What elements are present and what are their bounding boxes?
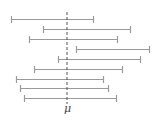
confidence-interval [29, 36, 118, 43]
interval-group [11, 16, 150, 102]
confidence-interval [11, 16, 94, 23]
confidence-interval [34, 66, 123, 73]
confidence-interval [20, 85, 109, 92]
confidence-interval [16, 76, 104, 83]
confidence-interval [58, 56, 141, 63]
confidence-interval [24, 95, 117, 102]
mu-label: μ [64, 102, 71, 115]
confidence-interval-diagram: μ [0, 0, 162, 128]
confidence-interval [43, 26, 131, 33]
confidence-interval [76, 46, 150, 53]
